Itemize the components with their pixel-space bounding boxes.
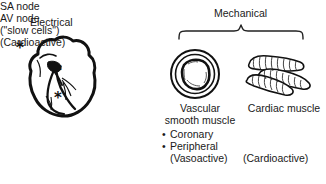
mechanical-title: Mechanical bbox=[214, 7, 267, 19]
note-cardioactive: (Cardioactive) bbox=[243, 152, 308, 164]
mechanical-brace bbox=[176, 24, 306, 44]
bullet-dot-icon: • bbox=[162, 128, 170, 140]
cardiac-label: Cardiac muscle bbox=[244, 102, 324, 114]
curly-brace-path bbox=[179, 25, 303, 39]
cardiac-muscle-svg bbox=[242, 48, 314, 100]
vessel-cross-section-diagram bbox=[168, 48, 222, 104]
bullet-item-coronary: •Coronary bbox=[162, 128, 213, 140]
bullet-item-peripheral: •Peripheral bbox=[162, 140, 218, 152]
bullet-dot-icon: • bbox=[162, 140, 170, 152]
cardiac-muscle-diagram bbox=[242, 48, 314, 104]
note-vasoactive: (Vasoactive) bbox=[170, 152, 228, 164]
asterisk-av-node: * bbox=[54, 62, 62, 80]
muscle-fiber-group bbox=[246, 56, 310, 95]
vessel-cross-section-svg bbox=[168, 48, 222, 100]
bullet-text-peripheral: Peripheral bbox=[170, 140, 218, 152]
curly-brace-svg bbox=[176, 24, 306, 40]
label-av-node: AV node bbox=[0, 12, 326, 24]
bullet-text-coronary: Coronary bbox=[170, 128, 213, 140]
asterisk-conduction: * bbox=[54, 89, 62, 107]
vessel-lumen-outline bbox=[182, 60, 209, 89]
vascular-label-line2: smooth muscle bbox=[160, 114, 240, 126]
label-sa-node: SA node bbox=[0, 0, 326, 12]
vascular-label: Vascular smooth muscle bbox=[160, 102, 240, 126]
vascular-label-line1: Vascular bbox=[160, 102, 240, 114]
figure-canvas: Electrical * * * bbox=[0, 0, 326, 184]
